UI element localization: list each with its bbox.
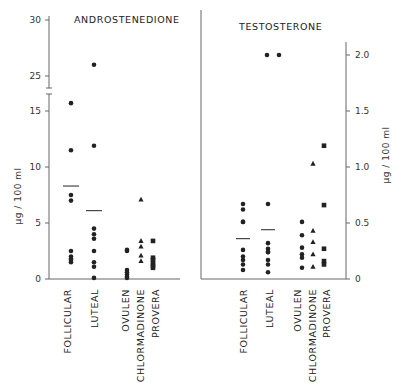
y-tick-label: 10 [30, 162, 42, 172]
data-point-circle [69, 148, 74, 153]
data-point-circle [241, 248, 246, 253]
y-tick-label: 30 [30, 15, 42, 25]
category-label-luteal: LUTEAL [264, 289, 275, 328]
data-point-circle [241, 268, 246, 273]
data-point-square [322, 246, 327, 251]
category-label-luteal: LUTEAL [89, 289, 100, 328]
category-label-ovulen: OVULEN [292, 289, 303, 332]
data-point-circle [69, 198, 74, 203]
series-provera [151, 239, 156, 270]
y-tick-label: 5 [35, 218, 41, 228]
category-label-provera: PROVERA [321, 289, 332, 338]
y-tick-label: 0.5 [355, 218, 369, 228]
data-point-circle [92, 249, 97, 254]
data-point-circle [241, 207, 246, 212]
data-point-circle [300, 220, 305, 225]
category-label-follicular: FOLLICULAR [238, 289, 249, 354]
data-point-circle [125, 249, 130, 254]
data-point-circle [300, 245, 305, 250]
data-point-circle [265, 53, 270, 58]
data-point-circle [92, 232, 97, 237]
data-point-circle [69, 260, 74, 265]
y-tick-label: 1.0 [355, 162, 370, 172]
right-panel-title: TESTOSTERONE [238, 21, 322, 32]
y-tick-label: 15 [30, 106, 41, 116]
data-point-circle [92, 276, 97, 281]
data-point-circle [266, 258, 271, 263]
data-point-circle [300, 255, 305, 260]
y-tick-label: 2.0 [355, 50, 370, 60]
data-point-circle [300, 233, 305, 238]
data-point-circle [300, 266, 305, 271]
series-follicular [63, 101, 79, 265]
category-label-provera: PROVERA [150, 289, 161, 338]
data-point-circle [92, 143, 97, 148]
data-point-square [322, 203, 327, 208]
category-label-ovulen: OVULEN [120, 289, 131, 332]
right-panel: 00.51.01.52.0TESTOSTERONEµg / 100 mlFOLL… [201, 10, 391, 382]
data-point-circle [266, 250, 271, 255]
series-ovulen [300, 220, 305, 271]
data-point-circle [92, 226, 97, 231]
left-y-axis-label: µg / 100 ml [13, 168, 23, 225]
data-point-square [151, 266, 156, 271]
data-point-square [322, 143, 327, 148]
series-luteal [261, 53, 281, 275]
data-point-circle [69, 193, 74, 198]
data-point-triangle [310, 239, 315, 244]
data-point-triangle [138, 244, 143, 249]
hormone-scatter-chart: 0510152530ANDROSTENEDIONEµg / 100 mlFOLL… [0, 0, 403, 387]
y-tick-label: 0 [355, 274, 361, 284]
data-point-circle [266, 202, 271, 207]
category-label-chlormadinone: CHLORMADINONE [307, 289, 318, 382]
data-point-triangle [310, 252, 315, 257]
data-point-circle [266, 270, 271, 275]
data-point-circle [241, 220, 246, 225]
y-tick-label: 1.5 [355, 106, 369, 116]
data-point-triangle [138, 238, 143, 243]
data-point-triangle [138, 253, 143, 258]
series-chlormadinone [310, 161, 315, 269]
data-point-triangle [138, 197, 143, 202]
left-panel-title: ANDROSTENEDIONE [74, 14, 180, 25]
data-point-circle [266, 262, 271, 267]
data-point-circle [92, 264, 97, 269]
data-point-triangle [310, 228, 315, 233]
data-point-triangle [310, 161, 315, 166]
right-y-axis-label: µg / 100 ml [381, 127, 391, 184]
y-tick-label: 0 [35, 274, 41, 284]
y-tick-label: 25 [30, 71, 41, 81]
category-label-chlormadinone: CHLORMADINONE [135, 289, 146, 382]
data-point-circle [92, 236, 97, 241]
series-ovulen [125, 248, 130, 281]
data-point-circle [69, 101, 74, 106]
data-point-square [322, 262, 327, 267]
series-provera [322, 143, 327, 266]
data-point-triangle [138, 258, 143, 263]
data-point-circle [92, 63, 97, 68]
data-point-triangle [310, 264, 315, 269]
data-point-circle [241, 262, 246, 267]
data-point-circle [266, 241, 271, 246]
data-point-circle [277, 53, 282, 58]
left-panel: 0510152530ANDROSTENEDIONEµg / 100 mlFOLL… [13, 14, 180, 382]
data-point-circle [241, 258, 246, 263]
data-point-circle [241, 202, 246, 207]
data-point-circle [125, 276, 130, 281]
category-label-follicular: FOLLICULAR [62, 289, 73, 354]
data-point-square [151, 239, 156, 244]
series-luteal [86, 63, 102, 281]
data-point-circle [69, 249, 74, 254]
series-follicular [236, 202, 250, 273]
series-chlormadinone [138, 197, 143, 263]
data-point-circle [92, 260, 97, 265]
